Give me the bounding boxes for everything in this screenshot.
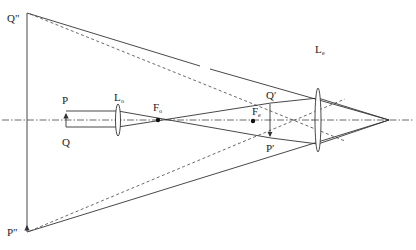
label-q: Q [62, 136, 70, 148]
ray-q-double-prime-solid-2 [210, 69, 389, 120]
label-p-double-prime: P" [7, 226, 18, 238]
ray-q-double-prime-solid [27, 13, 200, 66]
label-p-prime: P′ [266, 142, 275, 154]
ray-qprime-to-le [271, 98, 318, 103]
ray-pprime-to-le [271, 138, 318, 144]
label-q-prime: Q′ [266, 89, 276, 101]
objective-lens [116, 104, 121, 136]
ray-le-top-to-eye [318, 98, 389, 120]
label-lo-sub: o [121, 98, 124, 104]
ray-p-double-prime-dashed [30, 99, 345, 231]
ray-p-double-prime-solid [27, 120, 389, 232]
label-le: L [315, 43, 322, 55]
fo-focal-point [156, 118, 160, 122]
label-q-double-prime: Q" [7, 12, 19, 24]
ray-q-double-prime-dashed [30, 14, 345, 141]
fe-focal-point [251, 119, 255, 123]
label-fe-sub: e [258, 112, 261, 118]
telescope-ray-diagram: Q" P" P Q L o F o F e Q′ P′ L e [0, 0, 416, 250]
label-le-sub: e [322, 50, 325, 56]
ray-le-bottom-to-eye [318, 120, 389, 144]
label-lo: L [114, 91, 121, 103]
label-p: P [62, 94, 68, 106]
label-fo-sub: o [159, 108, 162, 114]
